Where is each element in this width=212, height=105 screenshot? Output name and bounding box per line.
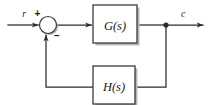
output-takeoff-node <box>163 22 168 27</box>
wire-node-down-to-feedback-block <box>136 25 166 87</box>
block-diagram-root: G(s) H(s) r c + − <box>0 0 212 105</box>
feedback-block: H(s) <box>93 66 138 105</box>
output-signal-label: c <box>181 9 186 19</box>
feedback-block-label: H(s) <box>102 80 125 94</box>
forward-block-label: G(s) <box>104 19 126 33</box>
summing-junction-plus-sign: + <box>35 8 41 19</box>
forward-block: G(s) <box>93 5 140 46</box>
input-signal-label: r <box>22 9 26 19</box>
summing-junction-minus-sign: − <box>54 30 60 41</box>
diagram-canvas: G(s) H(s) r c + − <box>0 0 212 105</box>
wire-feedback-block-to-sum <box>46 35 93 87</box>
